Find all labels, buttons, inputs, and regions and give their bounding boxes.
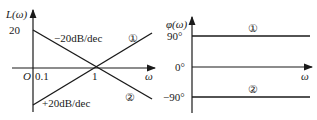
curve-2-marker: ②: [248, 83, 258, 95]
y-axis-label: L(ω): [5, 8, 28, 21]
x-axis-label: ω: [301, 70, 309, 82]
tick-m90: −90°: [163, 91, 185, 103]
tick-20: 20: [9, 24, 21, 36]
magnitude-plot: L(ω) 20 O 0.1 1 ω −20dB/dec +20dB/dec ① …: [5, 8, 155, 112]
origin-label: O: [23, 70, 31, 82]
curve-2-marker: ②: [125, 91, 135, 103]
slope-neg-label: −20dB/dec: [54, 32, 102, 44]
tick-0.1: 0.1: [35, 70, 49, 82]
slope-pos-label: +20dB/dec: [42, 97, 90, 109]
phase-plot: φ(ω) 90° 0° −90° ω ① ②: [163, 17, 312, 113]
curve-1-marker: ①: [248, 22, 258, 34]
tick-90: 90°: [167, 30, 182, 42]
x-axis-label: ω: [145, 70, 153, 82]
bode-diagram: L(ω) 20 O 0.1 1 ω −20dB/dec +20dB/dec ① …: [0, 0, 317, 120]
tick-1: 1: [92, 70, 98, 82]
curve-1-marker: ①: [128, 32, 138, 44]
tick-0: 0°: [175, 61, 185, 73]
